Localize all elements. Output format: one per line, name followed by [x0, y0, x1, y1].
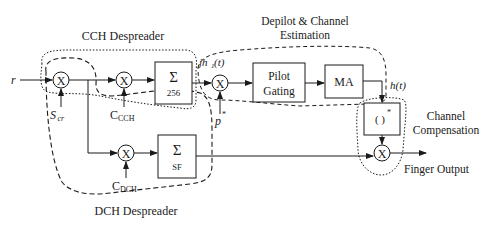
svg-text:( ): ( ): [375, 113, 385, 126]
svg-text:CCH: CCH: [118, 114, 135, 123]
finger-block-diagram: X X X X X Σ 256 Pilot Gating MA ( ) * Σ …: [0, 0, 488, 226]
svg-text:256: 256: [167, 88, 181, 98]
svg-text:C: C: [110, 108, 118, 122]
svg-text:X: X: [120, 74, 129, 88]
svg-text:X: X: [57, 74, 66, 88]
moving-average-block: MA: [325, 65, 363, 98]
pilot-gating-block: Pilot Gating: [253, 63, 305, 102]
svg-text:Gating: Gating: [263, 85, 295, 98]
cch-despreader-label: CCH Despreader: [82, 29, 164, 43]
svg-text:cr: cr: [58, 114, 66, 123]
raw-channel-estimate-label: jh 1 (t): [197, 56, 225, 70]
svg-text:X: X: [216, 77, 225, 91]
scrambling-multiplier: X: [53, 72, 69, 88]
svg-text:X: X: [378, 147, 387, 161]
sum-256-block: Σ 256: [155, 62, 192, 104]
finger-output-label: Finger Output: [404, 163, 470, 176]
dch-code-label: C DCH: [112, 179, 137, 194]
dch-multiplier: X: [118, 145, 134, 161]
svg-text:jh: jh: [197, 56, 208, 68]
svg-text:C: C: [112, 179, 120, 193]
channel-estimate-label: h(t): [390, 79, 406, 92]
svg-text:X: X: [122, 147, 131, 161]
svg-text:Pilot: Pilot: [268, 70, 291, 82]
cch-code-label: C CCH: [110, 108, 135, 123]
svg-text:*: *: [222, 110, 226, 119]
svg-text:(t): (t): [214, 56, 225, 69]
svg-text:Σ: Σ: [169, 69, 178, 85]
dch-despreader-label: DCH Despreader: [95, 204, 178, 218]
channel-compensation-label-line2: Compensation: [413, 124, 480, 137]
scrambling-code-label: S cr: [50, 108, 65, 123]
compensation-multiplier: X: [374, 145, 390, 161]
conjugate-block: ( ) *: [364, 103, 400, 135]
svg-text:DCH: DCH: [120, 185, 137, 194]
svg-text:SF: SF: [172, 162, 182, 172]
depilot-label-line2: Estimation: [280, 29, 330, 41]
svg-text:*: *: [387, 108, 391, 117]
svg-text:MA: MA: [334, 75, 354, 89]
cch-multiplier: X: [116, 72, 132, 88]
svg-text:p: p: [214, 114, 221, 128]
svg-text:Σ: Σ: [173, 142, 182, 158]
sum-sf-block: Σ SF: [158, 135, 196, 178]
depilot-multiplier: X: [212, 75, 228, 91]
input-label: r: [11, 73, 16, 87]
svg-text:S: S: [50, 108, 56, 122]
depilot-label-line1: Depilot & Channel: [261, 15, 349, 28]
channel-compensation-label-line1: Channel: [427, 110, 465, 122]
